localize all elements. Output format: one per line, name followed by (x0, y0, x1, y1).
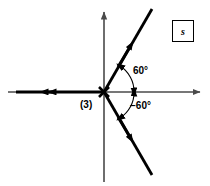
s-plane-label: s (181, 26, 185, 37)
s-plane-label-box: s (172, 20, 194, 42)
pole-multiplicity-label: (3) (80, 100, 92, 110)
angle-label-upper: 60° (133, 66, 148, 76)
angle-arc-upper (120, 66, 134, 92)
angle-label-lower: −60° (130, 101, 151, 111)
branch-lower-60deg-arrowhead (118, 117, 131, 139)
branch-upper-60deg-arrowhead (118, 45, 131, 67)
root-locus-figure: 60° −60° (3) s (0, 0, 210, 186)
